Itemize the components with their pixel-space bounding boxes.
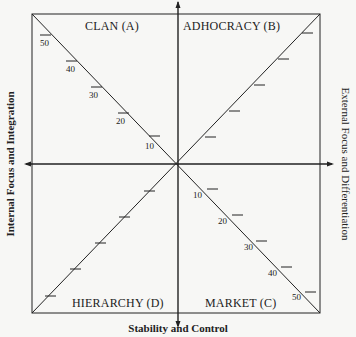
quadrant-label-market: MARKET (C) [205,296,276,311]
arrow-up-icon [176,1,181,8]
scale-tick-50: 50 [40,38,49,48]
quadrant-label-adhocracy: ADHOCRACY (B) [183,19,280,34]
axis-label-external: External Focus and Differentiation [340,66,352,262]
quadrant-label-clan: CLAN (A) [85,19,139,34]
scale-tick-10: 10 [145,141,154,151]
axis-label-stability: Stability and Control [118,322,238,334]
quadrant-label-hierarchy: HIERARCHY (D) [72,296,164,311]
scale-tick-30: 30 [89,90,98,100]
scale-tick-40: 40 [66,64,75,74]
arrow-right-icon [327,162,334,167]
scale-tick-40: 40 [268,268,277,278]
scale-tick-30: 30 [244,242,253,252]
scale-tick-20: 20 [116,116,125,126]
scale-tick-10: 10 [193,190,202,200]
scale-tick-50: 50 [292,292,301,302]
competing-values-diagram [0,0,356,337]
axis-label-internal: Internal Focus and Integration [4,79,16,249]
arrow-left-icon [24,162,31,167]
scale-tick-20: 20 [218,216,227,226]
